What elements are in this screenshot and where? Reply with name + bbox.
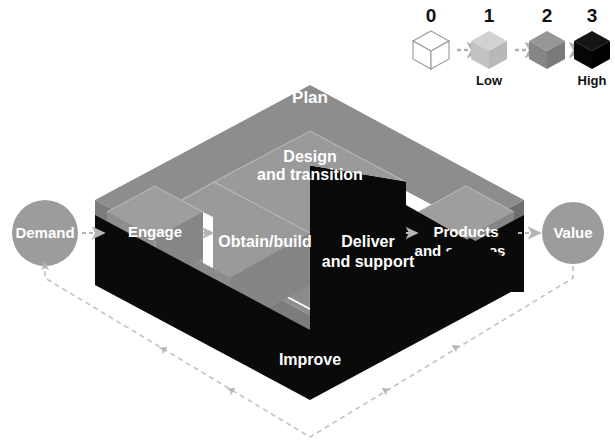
legend-level-3: 3 bbox=[587, 5, 598, 26]
label-engage: Engage bbox=[128, 223, 182, 240]
legend-level-1: 1 bbox=[484, 5, 495, 26]
label-plan: Plan bbox=[292, 88, 328, 107]
legend-item-3[interactable]: 3 High bbox=[574, 5, 610, 88]
legend-level-2: 2 bbox=[542, 5, 553, 26]
service-value-chain-diagram: Plan Design and transition Obtain/build … bbox=[0, 0, 615, 445]
legend: 0 1 Low 2 3 High bbox=[413, 5, 610, 88]
diagram-canvas: Plan Design and transition Obtain/build … bbox=[0, 0, 615, 445]
label-products-line1: Products bbox=[433, 223, 498, 240]
label-deliver-line1: Deliver bbox=[341, 233, 394, 250]
label-improve: Improve bbox=[279, 351, 341, 368]
feedback-arrow-3 bbox=[227, 385, 238, 396]
label-design-line2: and transition bbox=[257, 166, 363, 183]
value-node[interactable]: Value bbox=[542, 202, 604, 264]
legend-item-0[interactable]: 0 bbox=[413, 5, 449, 69]
feedback-arrow-4 bbox=[159, 344, 170, 355]
legend-item-1[interactable]: 1 Low bbox=[471, 5, 507, 88]
label-deliver-line2: and support bbox=[322, 253, 415, 270]
legend-caption-high: High bbox=[578, 73, 607, 88]
gap-strip-engage bbox=[203, 212, 213, 268]
legend-caption-low: Low bbox=[476, 73, 503, 88]
value-label: Value bbox=[553, 224, 592, 241]
demand-node[interactable]: Demand bbox=[12, 200, 78, 266]
demand-label: Demand bbox=[15, 224, 74, 241]
legend-item-2[interactable]: 2 bbox=[529, 5, 565, 69]
label-design-line1: Design bbox=[283, 148, 336, 165]
legend-level-0: 0 bbox=[426, 5, 437, 26]
label-obtain-build: Obtain/build bbox=[218, 233, 311, 250]
